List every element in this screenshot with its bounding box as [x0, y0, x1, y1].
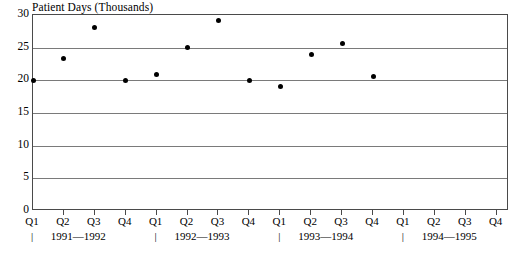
period-delimiter: | [155, 230, 157, 242]
data-point [185, 45, 190, 50]
period-delimiter: | [278, 230, 280, 242]
y-tick-label: 15 [3, 106, 29, 118]
gridline [33, 80, 507, 81]
data-point [371, 74, 376, 79]
data-point [92, 25, 97, 30]
x-tick-label: Q3 [458, 215, 471, 227]
x-tick-label: Q3 [87, 215, 100, 227]
data-point [31, 78, 36, 83]
data-point [216, 18, 221, 23]
x-tick-label: Q3 [211, 215, 224, 227]
data-point [247, 78, 252, 83]
gridline [33, 146, 507, 147]
y-axis-title: Patient Days (Thousands) [32, 1, 153, 14]
period-delimiter: | [31, 230, 33, 242]
gridline [33, 48, 507, 49]
data-point [61, 56, 66, 61]
x-tick-label: Q4 [489, 215, 502, 227]
period-label: 1994—1995 [422, 230, 477, 242]
plot-area [32, 14, 508, 210]
y-tick-label: 25 [3, 41, 29, 53]
x-tick-label: Q4 [365, 215, 378, 227]
data-point [123, 78, 128, 83]
period-label: 1992—1993 [175, 230, 230, 242]
x-tick-label: Q3 [334, 215, 347, 227]
x-tick-label: Q2 [56, 215, 69, 227]
x-tick-label: Q1 [396, 215, 409, 227]
period-label: 1991—1992 [51, 230, 106, 242]
x-tick-label: Q1 [273, 215, 286, 227]
x-tick-label: Q4 [242, 215, 255, 227]
x-tick-label: Q2 [180, 215, 193, 227]
data-point [154, 72, 159, 77]
x-tick-label: Q4 [118, 215, 131, 227]
y-tick-label: 30 [3, 8, 29, 20]
data-point [309, 52, 314, 57]
x-tick-label: Q1 [25, 215, 38, 227]
y-tick-label: 5 [3, 172, 29, 184]
y-axis-tick-labels: 302520151050 [0, 14, 29, 210]
x-tick-label: Q2 [427, 215, 440, 227]
y-tick-label: 10 [3, 139, 29, 151]
chart-figure: Patient Days (Thousands) 302520151050 Q1… [0, 0, 527, 270]
x-tick-label: Q1 [149, 215, 162, 227]
data-point [340, 41, 345, 46]
x-tick-label: Q2 [303, 215, 316, 227]
data-point [278, 84, 283, 89]
period-delimiter: | [402, 230, 404, 242]
gridline [33, 113, 507, 114]
y-tick-label: 20 [3, 74, 29, 86]
period-label: 1993—1994 [298, 230, 353, 242]
gridline [33, 178, 507, 179]
